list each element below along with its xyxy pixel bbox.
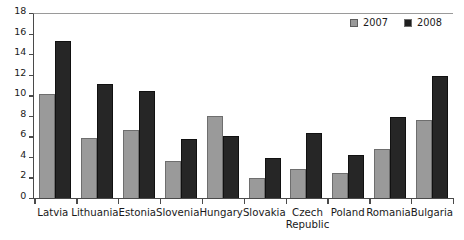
x-axis-label-estonia: Estonia — [119, 207, 157, 232]
x-axis-label-line: Czech — [286, 207, 330, 219]
bar-2008 — [306, 133, 322, 198]
bar-2007 — [290, 169, 306, 198]
x-axis-tick-mark — [369, 199, 370, 204]
y-axis-tick-label: 0 — [20, 191, 26, 201]
bar-2008 — [348, 155, 364, 198]
x-axis-label-line: Hungary — [199, 207, 243, 219]
bar-2008 — [390, 117, 406, 198]
bar-chart: 181614121086420 LatviaLithuaniaEstoniaSl… — [0, 0, 464, 240]
x-axis-label-slovakia: Slovakia — [243, 207, 286, 232]
x-axis-tick — [244, 199, 286, 205]
x-axis-tick-mark — [327, 199, 328, 204]
bar-2007 — [39, 94, 55, 198]
bar-group — [411, 13, 453, 198]
x-axis-tick — [76, 199, 118, 205]
x-axis-tick-mark — [160, 199, 161, 204]
bar-group — [160, 13, 202, 198]
x-axis-label-line: Slovenia — [156, 207, 199, 219]
x-axis-label-line: Bulgaria — [411, 207, 453, 219]
bar-2008 — [139, 91, 155, 198]
x-axis-tick — [327, 199, 369, 205]
x-axis-label-line: Lithuania — [71, 207, 118, 219]
x-axis-tick — [369, 199, 411, 205]
x-axis-tick — [34, 199, 76, 205]
x-axis-labels: LatviaLithuaniaEstoniaSloveniaHungarySlo… — [34, 207, 453, 232]
bar-2007 — [416, 120, 432, 198]
x-axis-tick-mark — [202, 199, 203, 204]
bar-group — [286, 13, 328, 198]
bar-2007 — [165, 161, 181, 198]
x-axis-tick-mark — [118, 199, 119, 204]
x-axis-label-czech-republic: CzechRepublic — [286, 207, 330, 232]
x-axis-label-hungary: Hungary — [199, 207, 243, 232]
y-axis-tick-label: 6 — [20, 129, 26, 139]
y-axis-tick-label: 8 — [20, 109, 26, 119]
bar-group — [327, 13, 369, 198]
x-axis-label-bulgaria: Bulgaria — [411, 207, 453, 232]
y-axis-tick-label: 12 — [14, 68, 26, 78]
x-axis-tick — [202, 199, 244, 205]
x-axis-label-latvia: Latvia — [34, 207, 71, 232]
x-axis-tick-mark — [76, 199, 77, 204]
bar-2008 — [97, 84, 113, 198]
bar-group — [34, 13, 76, 198]
x-axis-label-line: Slovakia — [243, 207, 286, 219]
x-axis-label-poland: Poland — [329, 207, 366, 232]
x-axis-tick-mark — [411, 199, 412, 204]
y-axis-tick-label: 4 — [20, 150, 26, 160]
legend-entry-2007[interactable]: 2007 — [350, 18, 388, 28]
y-axis-tick-label: 16 — [14, 27, 26, 37]
bar-2007 — [374, 149, 390, 198]
x-axis-label-romania: Romania — [366, 207, 411, 232]
legend-swatch-2008-icon — [404, 19, 412, 27]
legend-swatch-2007-icon — [350, 19, 358, 27]
x-axis-tick — [286, 199, 328, 205]
legend: 20072008 — [350, 18, 442, 28]
x-axis-label-line: Poland — [329, 207, 366, 219]
y-axis-tick-label: 14 — [14, 47, 26, 57]
x-axis-tick — [160, 199, 202, 205]
x-axis-label-line: Estonia — [119, 207, 157, 219]
bar-2007 — [332, 173, 348, 198]
x-axis-tick — [118, 199, 160, 205]
bar-2008 — [55, 41, 71, 198]
y-axis-tick-label: 2 — [20, 170, 26, 180]
x-axis-label-slovenia: Slovenia — [156, 207, 199, 232]
x-axis-tick-mark — [286, 199, 287, 204]
bar-2008 — [223, 136, 239, 198]
y-axis-tick-label: 18 — [14, 6, 26, 16]
x-axis-label-line: Romania — [366, 207, 411, 219]
bar-2007 — [81, 138, 97, 198]
bar-2008 — [432, 76, 448, 198]
x-axis-label-line: Republic — [286, 219, 330, 231]
x-axis-label-line: Latvia — [34, 207, 71, 219]
y-axis-tick-label: 10 — [14, 88, 26, 98]
bar-2008 — [181, 139, 197, 198]
x-axis-tick — [411, 199, 453, 205]
bar-group — [202, 13, 244, 198]
x-axis-tick-mark-end — [453, 199, 454, 204]
plot-area — [34, 13, 453, 198]
bar-group — [369, 13, 411, 198]
bar-2008 — [265, 158, 281, 198]
x-axis-tick-mark — [34, 199, 35, 204]
legend-entry-2008[interactable]: 2008 — [404, 18, 442, 28]
bar-group — [244, 13, 286, 198]
bar-group — [76, 13, 118, 198]
x-axis-tick-mark — [244, 199, 245, 204]
bar-2007 — [207, 116, 223, 198]
legend-label: 2008 — [417, 18, 442, 28]
bar-group — [118, 13, 160, 198]
bar-2007 — [123, 130, 139, 198]
legend-label: 2007 — [363, 18, 388, 28]
bar-2007 — [249, 178, 265, 198]
x-axis-ticks — [34, 199, 453, 205]
x-axis-label-lithuania: Lithuania — [71, 207, 118, 232]
